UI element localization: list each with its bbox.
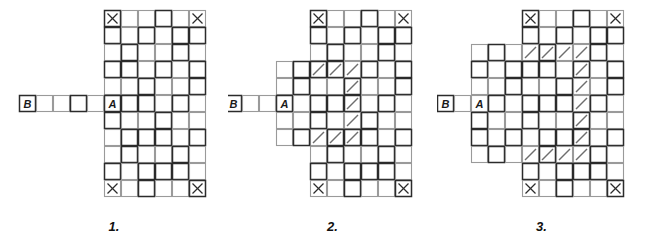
grid-cell (362, 45, 378, 61)
diagonal-stroke (576, 132, 587, 143)
grid-cell (190, 62, 206, 78)
extension-cell (472, 113, 488, 129)
x-mark (108, 14, 118, 24)
diagonal-stroke (542, 47, 553, 58)
grid-cell (540, 28, 556, 44)
extension-cell (506, 79, 522, 95)
grid-cell (311, 113, 327, 129)
grid-cell (557, 11, 573, 27)
diagonal-stroke (525, 47, 536, 58)
extension-cell (489, 96, 505, 112)
grid-cell (540, 96, 556, 112)
grid-cell (190, 113, 206, 129)
diagonal-stroke (347, 81, 358, 92)
grid-cell (523, 28, 539, 44)
grid-cell (173, 164, 189, 180)
grid-cell (379, 130, 395, 146)
diagonal-stroke (313, 64, 324, 75)
grid-cell (379, 96, 395, 112)
grid-cell (328, 28, 344, 44)
grid-cell (156, 62, 172, 78)
grid-cell (345, 11, 361, 27)
grid-cell (173, 45, 189, 61)
grid-cell (105, 45, 121, 61)
label-b: B (230, 98, 238, 110)
grid-cell (156, 28, 172, 44)
extension-cell (489, 147, 505, 163)
grid-cell (328, 164, 344, 180)
figure-3: BA3. (437, 0, 646, 242)
grid-cell (345, 28, 361, 44)
figure-diagram: BA (228, 0, 437, 205)
grid-cell (122, 28, 138, 44)
x-mark (193, 184, 203, 194)
grid-cell (190, 45, 206, 61)
grid-cell (574, 28, 590, 44)
extension-cell (506, 147, 522, 163)
grid-cell (523, 130, 539, 146)
grid-cell (173, 28, 189, 44)
grid-cell (396, 147, 412, 163)
grid-cell (540, 113, 556, 129)
grid-cell (557, 113, 573, 129)
grid-cell (156, 11, 172, 27)
grid-cell (311, 28, 327, 44)
diagonal-stroke (576, 81, 587, 92)
grid-cell (328, 147, 344, 163)
grid-cell (362, 28, 378, 44)
grid-cell (328, 45, 344, 61)
grid-cell (608, 28, 624, 44)
grid-cell (105, 113, 121, 129)
diagonal-stroke (347, 64, 358, 75)
x-mark (611, 184, 621, 194)
arm-cell (88, 96, 104, 112)
extension-cell (489, 113, 505, 129)
grid-cell (156, 130, 172, 146)
grid-cell (608, 130, 624, 146)
x-mark (314, 14, 324, 24)
extension-cell (506, 96, 522, 112)
grid-cell (105, 79, 121, 95)
grid-cell (523, 164, 539, 180)
grid-cell (591, 130, 607, 146)
grid-cell (396, 96, 412, 112)
grid-cell (139, 96, 155, 112)
grid-cell (190, 96, 206, 112)
grid-cell (156, 181, 172, 197)
grid-cell (396, 130, 412, 146)
grid-cell (523, 96, 539, 112)
grid-cell (190, 164, 206, 180)
diagonal-stroke (576, 64, 587, 75)
x-mark (108, 184, 118, 194)
extension-cell (472, 79, 488, 95)
grid-cell (156, 113, 172, 129)
grid-cell (345, 45, 361, 61)
grid-cell (311, 164, 327, 180)
grid-cell (608, 45, 624, 61)
grid-cell (362, 181, 378, 197)
diagonal-marks (313, 64, 358, 143)
grid-cell (105, 130, 121, 146)
diagonal-stroke (347, 98, 358, 109)
grid-cell (591, 11, 607, 27)
grid-cell (608, 113, 624, 129)
grid-cell (173, 62, 189, 78)
grid-cell (122, 79, 138, 95)
extension-cell (294, 96, 310, 112)
extension-cell (472, 130, 488, 146)
grid-cell (173, 181, 189, 197)
grid-cell (105, 147, 121, 163)
grid-cell (345, 181, 361, 197)
extension-cell (506, 45, 522, 61)
grid-cell (105, 28, 121, 44)
grid-cell (362, 79, 378, 95)
figures-container: BA1.BA2.BA3. (0, 0, 646, 242)
grid-cell (156, 79, 172, 95)
grid-cell (591, 164, 607, 180)
diagonal-stroke (525, 149, 536, 160)
diagonal-stroke (559, 149, 570, 160)
grid-cell (139, 62, 155, 78)
extension-cell (472, 147, 488, 163)
grid-cell (139, 45, 155, 61)
grid-cell (523, 62, 539, 78)
